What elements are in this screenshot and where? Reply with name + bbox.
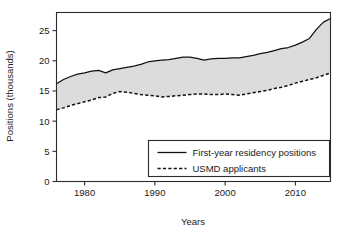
x-axis-ticks: 1980199020002010 — [74, 182, 306, 198]
y-tick-label: 5 — [44, 146, 49, 157]
y-tick-label: 0 — [44, 176, 49, 187]
shaded-band-between-series — [57, 19, 331, 110]
x-axis-title: Years — [181, 216, 205, 227]
y-tick-label: 20 — [39, 55, 50, 66]
y-axis-ticks: 0510152025 — [39, 25, 57, 187]
band-area — [57, 19, 331, 110]
y-tick-label: 15 — [39, 85, 50, 96]
y-axis-title: Positions (thousands) — [4, 50, 15, 141]
x-tick-label: 1980 — [74, 187, 95, 198]
x-tick-label: 1990 — [144, 187, 165, 198]
y-tick-label: 25 — [39, 25, 50, 36]
line-chart: 1980199020002010 0510152025 Years Positi… — [0, 0, 350, 234]
chart-legend: First-year residency positionsUSMD appli… — [149, 141, 330, 177]
x-tick-label: 2010 — [285, 187, 306, 198]
chart-container: 1980199020002010 0510152025 Years Positi… — [0, 0, 350, 234]
legend-label: First-year residency positions — [193, 147, 317, 158]
y-tick-label: 10 — [39, 116, 50, 127]
legend-label: USMD applicants — [193, 163, 267, 174]
x-tick-label: 2000 — [215, 187, 236, 198]
